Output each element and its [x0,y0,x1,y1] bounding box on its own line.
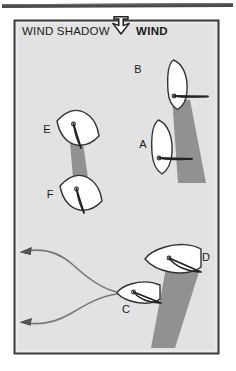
diagram-page: WIND SHADOW WIND B A E [0,0,236,371]
boat-f-label: F [47,188,54,200]
wind-shadow-label: WIND SHADOW [22,25,110,37]
boat-a-label: A [139,138,147,150]
boat-d-label: D [202,251,210,263]
wind-label: WIND [136,25,168,37]
boat-c-label: C [122,303,130,315]
boat-b-label: B [134,63,141,75]
boat-e-label: E [43,123,50,135]
